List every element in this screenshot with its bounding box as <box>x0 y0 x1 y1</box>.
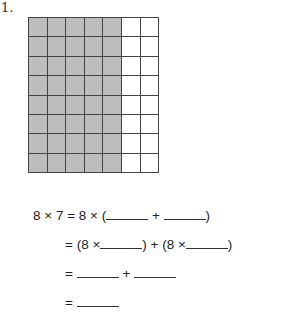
unshaded-cell <box>122 37 141 56</box>
unshaded-cell <box>141 76 160 95</box>
shaded-cell <box>66 134 85 153</box>
shaded-cell <box>48 134 67 153</box>
shaded-cell <box>66 154 85 173</box>
answer-blank[interactable] <box>77 294 119 307</box>
equals-sign: = <box>65 266 77 281</box>
answer-blank[interactable] <box>186 236 228 249</box>
equation-text: ) + (8 × <box>142 237 186 252</box>
unshaded-cell <box>122 57 141 76</box>
shaded-cell <box>103 96 122 115</box>
equation-line-1: 8 × 7 = 8 × ( + ) <box>33 207 210 224</box>
shaded-cell <box>66 115 85 134</box>
answer-blank[interactable] <box>106 207 148 220</box>
shaded-cell <box>66 57 85 76</box>
equals-sign: = <box>65 295 77 310</box>
unshaded-cell <box>141 134 160 153</box>
problem-number: 1. <box>1 0 13 15</box>
answer-blank[interactable] <box>164 207 206 220</box>
unshaded-cell <box>122 154 141 173</box>
shaded-cell <box>48 96 67 115</box>
equation-text: = (8 × <box>65 237 100 252</box>
shaded-cell <box>85 115 104 134</box>
unshaded-cell <box>122 115 141 134</box>
shaded-cell <box>103 57 122 76</box>
unshaded-cell <box>122 134 141 153</box>
shaded-cell <box>103 76 122 95</box>
shaded-cell <box>48 154 67 173</box>
equation-text: 8 × 7 = 8 × ( <box>33 208 106 223</box>
unshaded-cell <box>141 115 160 134</box>
shaded-cell <box>29 134 48 153</box>
unshaded-cell <box>141 154 160 173</box>
plus-sign: + <box>119 266 134 281</box>
shaded-cell <box>103 18 122 37</box>
unshaded-cell <box>141 18 160 37</box>
shaded-cell <box>103 37 122 56</box>
shaded-cell <box>48 76 67 95</box>
shaded-cell <box>48 37 67 56</box>
shaded-cell <box>85 134 104 153</box>
shaded-cell <box>85 154 104 173</box>
shaded-cell <box>66 37 85 56</box>
shaded-cell <box>103 115 122 134</box>
shaded-cell <box>29 57 48 76</box>
shaded-cell <box>85 76 104 95</box>
answer-blank[interactable] <box>77 265 119 278</box>
answer-blank[interactable] <box>134 265 176 278</box>
shaded-cell <box>29 115 48 134</box>
shaded-cell <box>48 18 67 37</box>
close-paren: ) <box>228 237 233 252</box>
shaded-cell <box>48 57 67 76</box>
shaded-cell <box>66 76 85 95</box>
equation-line-2: = (8 ×) + (8 ×) <box>65 236 232 253</box>
shaded-cell <box>103 134 122 153</box>
close-paren: ) <box>206 208 211 223</box>
unshaded-cell <box>141 96 160 115</box>
unshaded-cell <box>122 96 141 115</box>
shaded-cell <box>29 154 48 173</box>
shaded-cell <box>85 57 104 76</box>
unshaded-cell <box>122 18 141 37</box>
unshaded-cell <box>141 57 160 76</box>
shaded-cell <box>29 76 48 95</box>
equation-line-4: = <box>65 294 119 311</box>
answer-blank[interactable] <box>100 236 142 249</box>
shaded-cell <box>29 37 48 56</box>
shaded-cell <box>66 18 85 37</box>
unshaded-cell <box>122 76 141 95</box>
equation-line-3: = + <box>65 265 176 282</box>
shaded-cell <box>85 18 104 37</box>
area-model-grid <box>28 17 159 173</box>
plus-sign: + <box>148 208 163 223</box>
shaded-cell <box>103 154 122 173</box>
shaded-cell <box>85 37 104 56</box>
shaded-cell <box>85 96 104 115</box>
shaded-cell <box>66 96 85 115</box>
shaded-cell <box>48 115 67 134</box>
shaded-cell <box>29 18 48 37</box>
shaded-cell <box>29 96 48 115</box>
unshaded-cell <box>141 37 160 56</box>
